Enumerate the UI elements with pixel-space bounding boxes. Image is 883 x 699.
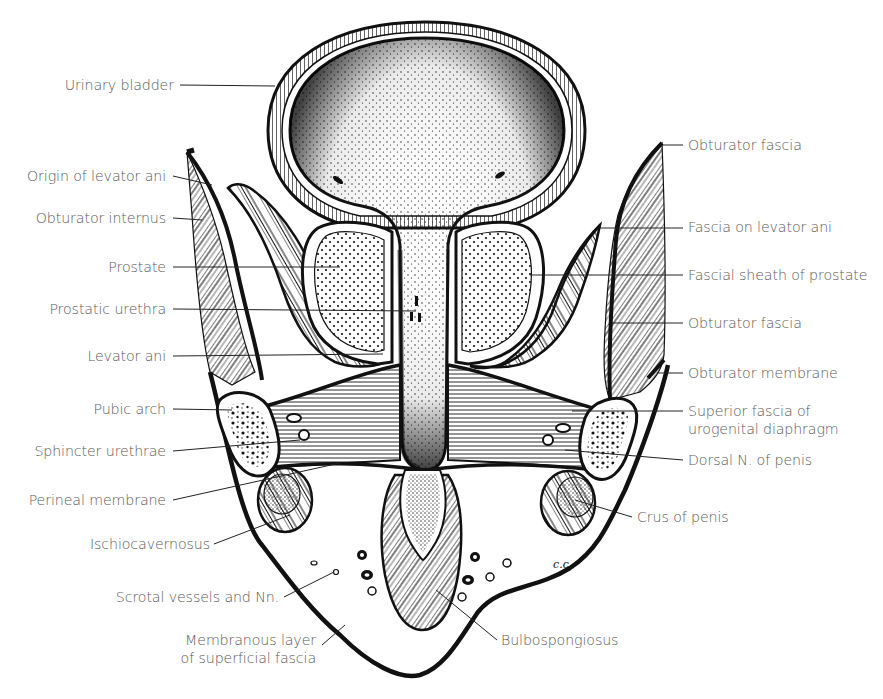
label-urinary-bladder: Urinary bladder [65, 76, 174, 94]
label-ischiocavernosus: Ischiocavernosus [90, 535, 210, 553]
anatomy-figure: c.c. Urinary bladder Origin of levator a… [0, 0, 883, 699]
label-membranous-layer: Membranous layer of superficial fascia [181, 631, 316, 667]
label-obturator-membrane: Obturator membrane [688, 364, 838, 382]
label-pubic-arch: Pubic arch [93, 400, 166, 418]
label-obturator-fascia-upper: Obturator fascia [688, 136, 802, 154]
label-bulbospongiosus: Bulbospongiosus [501, 631, 618, 649]
label-fascial-sheath-of-prostate: Fascial sheath of prostate [688, 266, 867, 284]
label-prostatic-urethra: Prostatic urethra [49, 300, 166, 318]
obturator-internus-right [604, 143, 665, 400]
label-perineal-membrane: Perineal membrane [29, 491, 166, 509]
artist-initials: c.c. [553, 558, 572, 571]
label-obturator-internus: Obturator internus [36, 209, 166, 227]
label-levator-ani: Levator ani [87, 347, 166, 365]
label-superior-fascia-urogenital: Superior fascia of urogenital diaphragm [688, 402, 839, 438]
label-dorsal-n-of-penis: Dorsal N. of penis [688, 451, 812, 469]
label-fascia-on-levator-ani: Fascia on levator ani [688, 218, 832, 236]
label-origin-of-levator-ani: Origin of levator ani [27, 167, 166, 185]
label-sphincter-urethrae: Sphincter urethrae [34, 442, 166, 460]
label-superior-fascia-line2: urogenital diaphragm [688, 420, 839, 438]
label-obturator-fascia-lower: Obturator fascia [688, 314, 802, 332]
crus-left [258, 468, 312, 532]
bulb-of-penis [382, 470, 462, 630]
label-membranous-layer-line2: of superficial fascia [181, 649, 316, 667]
crus-right [541, 471, 595, 535]
label-membranous-layer-line1: Membranous layer [181, 631, 316, 649]
label-scrotal-vessels: Scrotal vessels and Nn. [116, 588, 279, 606]
label-superior-fascia-line1: Superior fascia of [688, 402, 839, 420]
label-crus-of-penis: Crus of penis [637, 508, 729, 526]
label-prostate: Prostate [108, 258, 166, 276]
